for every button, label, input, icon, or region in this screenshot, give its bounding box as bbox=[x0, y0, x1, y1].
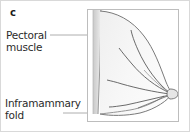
label-pectoral-muscle: Pectoral muscle bbox=[6, 29, 54, 53]
panel-letter: c bbox=[10, 8, 16, 18]
illustration-frame bbox=[87, 9, 179, 122]
label-inframammary-fold: Inframammary fold bbox=[5, 97, 85, 121]
figure-panel: c Pectoral muscle Inframammary fold bbox=[0, 0, 190, 132]
lateral-breast-anatomy-diagram bbox=[88, 10, 179, 122]
nipple bbox=[167, 89, 178, 99]
